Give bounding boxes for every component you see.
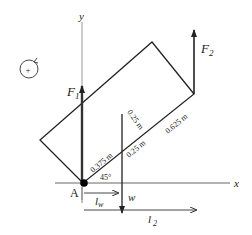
- dimension-025-perp: 0.25 m: [125, 108, 146, 132]
- x-axis-label: x: [233, 177, 239, 189]
- lever-arm-l2-label: l2: [148, 213, 157, 228]
- force-F1-label: F1: [66, 84, 79, 101]
- moment-sign-label: +: [26, 65, 31, 75]
- force-F2-label: F2: [200, 41, 214, 58]
- free-body-diagram: y x F1 F2 w + A 0.375 m 0.25 m 0.625 m 0…: [0, 0, 252, 235]
- point-A-label: A: [70, 186, 79, 200]
- moment-arrow-icon: [34, 58, 38, 63]
- pivot-point-A: [80, 179, 88, 187]
- rigid-body-rectangle: [40, 42, 194, 183]
- y-axis-label: y: [78, 10, 84, 22]
- weight-w-label: w: [128, 191, 136, 203]
- lever-arm-lw-label: lw: [95, 195, 104, 209]
- angle-45-label: 45°: [100, 173, 111, 182]
- dimension-0375: 0.375 m: [89, 150, 115, 174]
- diagram-svg: y x F1 F2 w + A 0.375 m 0.25 m 0.625 m 0…: [0, 0, 252, 235]
